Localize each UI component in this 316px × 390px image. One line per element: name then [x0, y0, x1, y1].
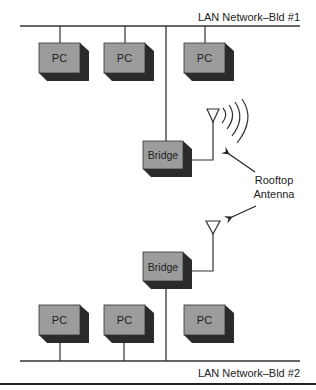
svg-text:PC: PC	[197, 52, 212, 64]
rooftop-antenna-annotation: Rooftop Antenna	[229, 154, 295, 217]
bridge-1: Bridge	[143, 141, 192, 177]
lan-bus-building-1: LAN Network–Bld #1	[20, 11, 300, 26]
pc-6: PC	[184, 305, 234, 343]
pc-4: PC	[39, 305, 89, 343]
pc-2: PC	[104, 43, 154, 81]
svg-text:PC: PC	[52, 52, 67, 64]
radio-waves-icon	[222, 99, 248, 143]
lan-label-building-2: LAN Network–Bld #2	[198, 367, 300, 379]
antenna-icon	[206, 221, 220, 234]
rooftop-antenna-1	[183, 99, 248, 160]
bridge-2: Bridge	[143, 252, 192, 289]
svg-text:Rooftop: Rooftop	[255, 174, 294, 186]
svg-text:Bridge: Bridge	[148, 261, 179, 273]
antenna-icon	[207, 109, 219, 122]
svg-text:PC: PC	[117, 52, 132, 64]
svg-text:PC: PC	[52, 314, 67, 326]
network-diagram: LAN Network–Bld #1 PC PC PC Bridge	[0, 0, 316, 390]
svg-text:PC: PC	[117, 314, 132, 326]
svg-text:Antenna: Antenna	[254, 188, 296, 200]
pc-1: PC	[39, 43, 89, 81]
lan-bus-building-2: LAN Network–Bld #2	[20, 361, 300, 379]
svg-text:Bridge: Bridge	[148, 149, 179, 161]
pc-3: PC	[184, 43, 234, 81]
svg-text:PC: PC	[197, 314, 212, 326]
pc-5: PC	[104, 305, 154, 343]
lan-label-building-1: LAN Network–Bld #1	[198, 11, 300, 23]
